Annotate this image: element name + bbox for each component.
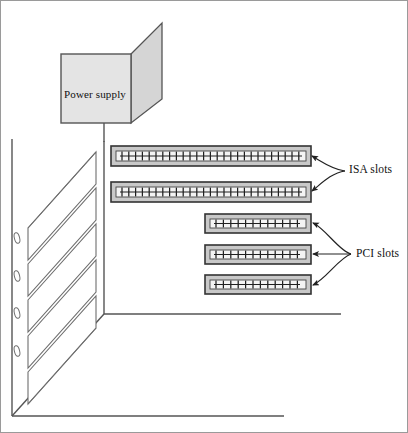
screw-hole-4 bbox=[13, 345, 21, 357]
isa-slot-1[interactable] bbox=[111, 146, 311, 166]
pci-arrow-to-slot-1 bbox=[313, 223, 351, 254]
screw-hole-2 bbox=[13, 270, 21, 282]
isa-callout-arrows bbox=[312, 156, 345, 191]
pci-arrow-to-slot-3 bbox=[313, 254, 351, 285]
power-supply-side-panel bbox=[131, 23, 162, 123]
power-supply-unit bbox=[61, 23, 162, 142]
power-supply-label: Power supply bbox=[64, 88, 126, 100]
isa-arrow-to-slot-1 bbox=[312, 156, 345, 171]
pci-slots-label: PCI slots bbox=[356, 247, 399, 259]
pci-callout-arrows bbox=[313, 223, 351, 285]
diagram-canvas: Power supply ISA slots PCI slots bbox=[0, 0, 408, 433]
screw-hole-1 bbox=[13, 232, 21, 244]
pci-slot-2[interactable] bbox=[205, 245, 311, 264]
isa-slot-2[interactable] bbox=[111, 182, 311, 202]
motherboard-diagram-svg bbox=[1, 1, 408, 433]
pci-slot-1[interactable] bbox=[205, 214, 311, 233]
screw-hole-3 bbox=[13, 307, 21, 319]
screw-holes bbox=[13, 232, 21, 357]
isa-slots-label: ISA slots bbox=[349, 163, 392, 175]
isa-arrow-to-slot-2 bbox=[312, 171, 345, 191]
pci-slot-3[interactable] bbox=[205, 275, 311, 294]
